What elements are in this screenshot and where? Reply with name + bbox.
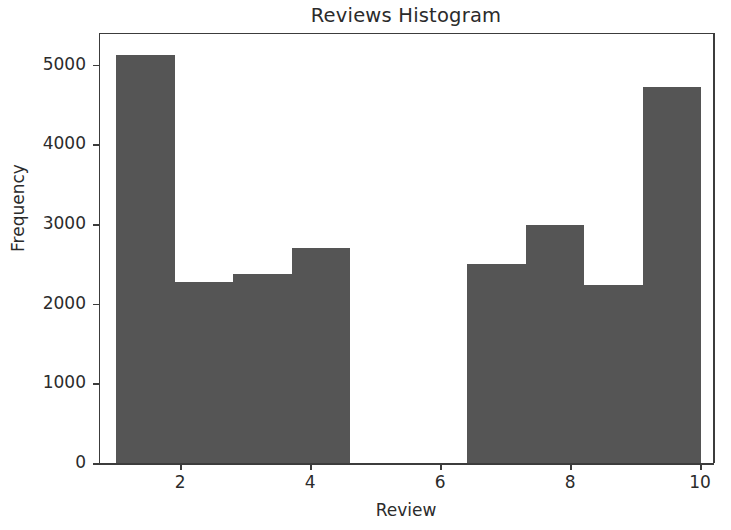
y-tick-mark xyxy=(93,463,99,465)
histogram-bar xyxy=(584,285,642,464)
x-tick-mark xyxy=(440,464,442,470)
bars-layer xyxy=(100,34,714,464)
right-spine xyxy=(713,33,715,463)
x-axis-label: Review xyxy=(99,500,713,520)
chart-title: Reviews Histogram xyxy=(99,4,713,27)
x-tick-label: 8 xyxy=(540,472,600,492)
y-tick-mark xyxy=(93,304,99,306)
y-tick-mark xyxy=(93,224,99,226)
histogram-bar xyxy=(292,248,350,464)
histogram-bar xyxy=(116,55,174,464)
histogram-bar xyxy=(526,225,584,464)
histogram-bar xyxy=(467,264,525,464)
x-tick-label: 2 xyxy=(150,472,210,492)
histogram-bar xyxy=(643,87,701,464)
y-tick-label: 1000 xyxy=(0,372,86,392)
x-tick-label: 4 xyxy=(280,472,340,492)
x-tick-label: 6 xyxy=(410,472,470,492)
y-axis-label: Frequency xyxy=(8,108,28,308)
x-tick-label: 10 xyxy=(670,472,730,492)
histogram-figure: Reviews Histogram 246810 010002000300040… xyxy=(0,0,731,530)
y-tick-label: 5000 xyxy=(0,54,86,74)
x-tick-mark xyxy=(570,464,572,470)
histogram-bar xyxy=(175,282,233,464)
y-tick-label: 0 xyxy=(0,452,86,472)
histogram-bar xyxy=(233,274,291,464)
y-tick-mark xyxy=(93,65,99,67)
x-tick-mark xyxy=(700,464,702,470)
y-tick-mark xyxy=(93,383,99,385)
plot-area xyxy=(99,33,714,464)
y-tick-mark xyxy=(93,144,99,146)
x-tick-mark xyxy=(180,464,182,470)
x-tick-mark xyxy=(310,464,312,470)
x-axis-line xyxy=(99,463,714,465)
